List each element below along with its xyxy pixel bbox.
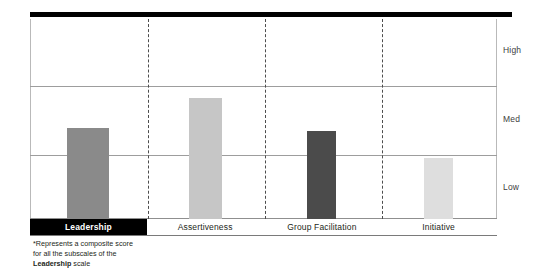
category-label-strip: Leadership Assertiveness Group Facilitat… — [30, 219, 497, 236]
category-label-assertiveness[interactable]: Assertiveness — [147, 219, 264, 235]
footnote: *Represents a composite score for all th… — [33, 239, 253, 270]
bar-chart: High Med Low Leadership Assertiveness Gr… — [0, 0, 551, 275]
bar-group-facilitation[interactable] — [307, 131, 336, 219]
bar-initiative[interactable] — [424, 158, 453, 219]
chart-top-rule — [30, 12, 512, 17]
y-axis-label-med: Med — [503, 114, 520, 124]
bar-leadership[interactable] — [67, 128, 109, 219]
y-axis-label-low: Low — [503, 182, 519, 192]
category-label-leadership[interactable]: Leadership — [30, 219, 147, 235]
footnote-line-3: Leadership scale — [33, 259, 253, 269]
y-axis-label-high: High — [503, 45, 521, 55]
footnote-leadership-term: Leadership — [33, 259, 71, 268]
footnote-line-2: for all the subscales of the — [33, 249, 253, 259]
category-label-group-facilitation[interactable]: Group Facilitation — [264, 219, 381, 235]
footnote-line-1: *Represents a composite score — [33, 239, 253, 249]
bar-assertiveness[interactable] — [189, 98, 222, 219]
footnote-scale-term: scale — [71, 259, 90, 268]
category-label-initiative[interactable]: Initiative — [380, 219, 497, 235]
bars-layer — [30, 19, 497, 219]
